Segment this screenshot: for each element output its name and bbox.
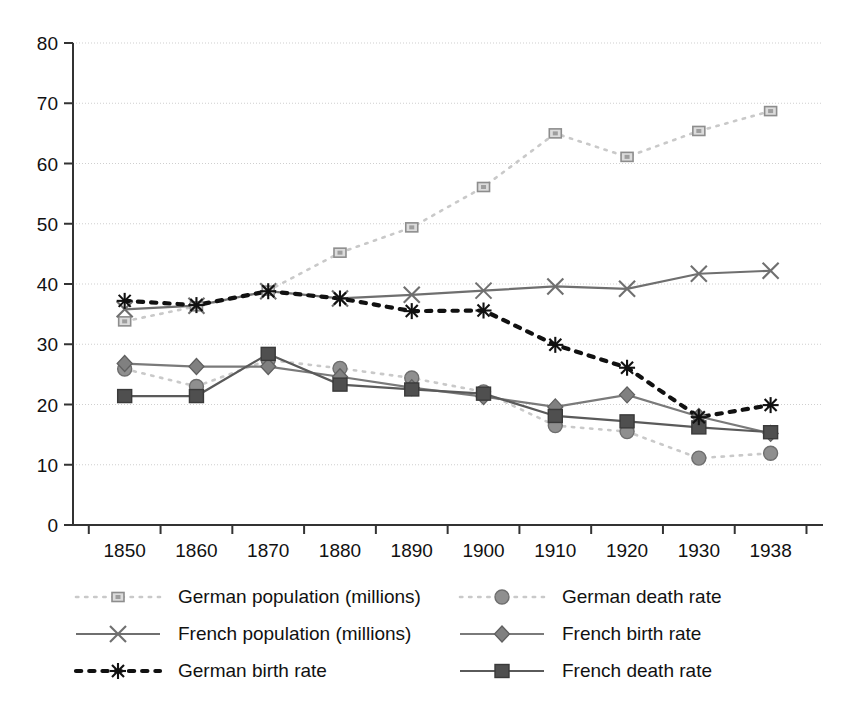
x-tick-label-1930: 1930	[678, 540, 720, 561]
x-tick-label-1880: 1880	[319, 540, 361, 561]
data-point-marker-asterisk	[619, 360, 635, 376]
y-tick-label-10: 10	[37, 455, 58, 476]
legend-label: German population (millions)	[178, 586, 421, 608]
data-point-marker-diamond	[620, 387, 635, 403]
chart-legend: German population (millions)German death…	[72, 578, 832, 689]
data-point-marker-asterisk	[404, 303, 420, 319]
data-point-marker-asterisk	[117, 293, 133, 309]
data-point-marker-diamond	[189, 359, 204, 375]
data-point-marker-asterisk	[763, 397, 779, 413]
y-tick-label-80: 80	[37, 33, 58, 54]
legend-item-french-birth-rate[interactable]: French birth rate	[456, 615, 832, 652]
data-point-marker-asterisk	[691, 409, 707, 425]
y-tick-label-70: 70	[37, 93, 58, 114]
data-point-marker-asterisk	[332, 290, 348, 306]
data-point-marker-circle	[764, 446, 778, 460]
data-point-marker-filled-square	[764, 426, 778, 439]
data-point-marker-filled-square	[333, 378, 347, 391]
legend-key-filled-square-icon	[456, 660, 548, 682]
series-line-german-birth-rate	[125, 291, 771, 417]
series-line-german-population-millions	[125, 111, 771, 321]
data-point-marker-square	[621, 152, 633, 161]
legend-key-cross-icon	[72, 623, 164, 645]
x-tick-label-1890: 1890	[391, 540, 433, 561]
legend-label: French population (millions)	[178, 623, 411, 645]
x-tick-label-1860: 1860	[175, 540, 217, 561]
data-point-marker-asterisk	[260, 283, 276, 299]
data-point-marker-asterisk	[110, 663, 126, 679]
legend-key-diamond-icon	[456, 623, 548, 645]
legend-key-circle-icon	[456, 586, 548, 608]
legend-item-german-population-millions[interactable]: German population (millions)	[72, 578, 448, 615]
data-point-marker-filled-square	[477, 387, 491, 400]
legend-label: German birth rate	[178, 660, 327, 682]
series-line-french-population-millions	[125, 271, 771, 310]
y-tick-label-20: 20	[37, 395, 58, 416]
legend-label: French death rate	[562, 660, 712, 682]
legend-item-french-population-millions[interactable]: French population (millions)	[72, 615, 448, 652]
data-point-marker-filled-square	[189, 390, 203, 403]
x-tick-label-1920: 1920	[606, 540, 648, 561]
data-point-marker-asterisk	[188, 297, 204, 313]
data-point-marker-asterisk	[476, 303, 492, 319]
x-tick-label-1900: 1900	[462, 540, 504, 561]
legend-item-german-birth-rate[interactable]: German birth rate	[72, 652, 448, 689]
legend-item-german-death-rate[interactable]: German death rate	[456, 578, 832, 615]
legend-item-french-death-rate[interactable]: French death rate	[456, 652, 832, 689]
data-point-marker-square	[406, 223, 418, 232]
chart-container: 0102030405060708018501860187018801890190…	[0, 0, 843, 727]
data-point-marker-square	[693, 126, 705, 135]
data-point-marker-square	[112, 592, 124, 601]
x-tick-label-1850: 1850	[104, 540, 146, 561]
x-tick-label-1870: 1870	[247, 540, 289, 561]
y-tick-label-0: 0	[47, 515, 58, 536]
data-point-marker-filled-square	[495, 664, 509, 677]
data-point-marker-filled-square	[261, 347, 275, 360]
data-point-marker-filled-square	[118, 390, 132, 403]
data-point-marker-filled-square	[620, 415, 634, 428]
data-point-marker-square	[478, 182, 490, 191]
y-tick-label-30: 30	[37, 334, 58, 355]
data-point-marker-circle	[692, 451, 706, 465]
data-point-marker-filled-square	[548, 409, 562, 422]
y-tick-label-40: 40	[37, 274, 58, 295]
data-point-marker-circle	[495, 590, 509, 604]
data-point-marker-square	[334, 248, 346, 257]
data-point-marker-diamond	[495, 626, 510, 642]
x-tick-label-1938: 1938	[749, 540, 791, 561]
data-point-marker-asterisk	[547, 337, 563, 353]
data-point-marker-square	[549, 129, 561, 138]
y-tick-label-60: 60	[37, 154, 58, 175]
x-tick-label-1910: 1910	[534, 540, 576, 561]
legend-key-asterisk-icon	[72, 660, 164, 682]
legend-label: German death rate	[562, 586, 721, 608]
legend-key-square-icon	[72, 586, 164, 608]
y-tick-label-50: 50	[37, 214, 58, 235]
data-point-marker-square	[119, 317, 131, 326]
data-point-marker-filled-square	[405, 383, 419, 396]
legend-label: French birth rate	[562, 623, 701, 645]
data-point-marker-square	[765, 107, 777, 116]
